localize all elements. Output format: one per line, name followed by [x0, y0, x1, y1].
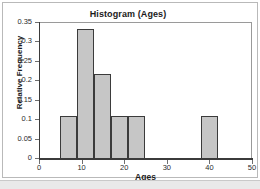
x-axis-tick-label: 40 — [197, 164, 221, 172]
histogram-bar — [201, 116, 218, 160]
histogram-bar — [60, 116, 77, 160]
chart-title: Histogram (Ages) — [0, 9, 256, 19]
histogram-bar — [128, 116, 145, 160]
y-axis-tick — [35, 100, 39, 101]
y-axis-tick — [35, 41, 39, 42]
y-axis-title: Relative Frequency — [15, 13, 24, 133]
y-axis-tick — [35, 119, 39, 120]
bottom-band — [0, 180, 260, 189]
y-axis-tick-label: 0 — [0, 154, 32, 162]
y-axis-tick-label: 0.05 — [0, 135, 32, 143]
y-axis-tick — [35, 22, 39, 23]
x-axis-tick-label: 0 — [27, 164, 51, 172]
y-axis-tick — [35, 80, 39, 81]
plot-area — [39, 22, 252, 158]
histogram-bar — [77, 29, 94, 160]
y-axis-tick — [35, 139, 39, 140]
x-axis-line — [39, 158, 253, 160]
histogram-bar — [94, 74, 111, 160]
x-axis-tick-label: 10 — [70, 164, 94, 172]
histogram-screenshot: Histogram (Ages) 0.350.30.250.20.150.10.… — [0, 0, 260, 189]
histogram-bar — [111, 116, 128, 160]
x-axis-tick-label: 20 — [112, 164, 136, 172]
x-axis-tick-label: 50 — [240, 164, 260, 172]
y-axis-tick — [35, 61, 39, 62]
y-axis-line — [39, 22, 40, 159]
x-axis-tick-label: 30 — [155, 164, 179, 172]
y-axis-tick — [35, 158, 39, 159]
